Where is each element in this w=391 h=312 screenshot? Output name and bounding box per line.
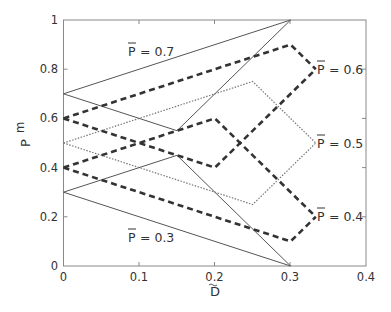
series-p07-lower [64,20,291,131]
svg-text:P: P [128,230,136,245]
svg-text:P: P [317,209,325,224]
svg-text:= 0.6: = 0.6 [329,62,363,77]
chart: 0 0.2 0.4 0.6 0.8 1 0 0.1 0.2 0.3 0.4 D … [0,0,391,312]
annotation-p03: P = 0.3 [128,229,174,245]
annotation-p07: P = 0.7 [128,43,174,59]
x-tick-0.3: 0.3 [281,270,299,284]
y-tick-0.6: 0.6 [40,111,58,125]
series-p03-upper [64,155,291,266]
svg-text:= 0.7: = 0.7 [140,44,174,59]
annotation-p04: P = 0.4 [317,208,363,224]
annotation-p06: P = 0.6 [317,61,363,77]
svg-text:P: P [317,136,325,151]
y-axis-label: P m [13,122,33,147]
svg-text:m: m [13,122,27,133]
y-tick-0.8: 0.8 [40,62,58,76]
y-tick-0.4: 0.4 [40,161,58,175]
y-tick-0.2: 0.2 [40,210,58,224]
annotation-p05: P = 0.5 [317,135,363,151]
x-tick-0.1: 0.1 [130,270,148,284]
x-tick-0: 0 [60,270,67,284]
svg-text:= 0.3: = 0.3 [140,230,174,245]
x-tick-0.4: 0.4 [357,270,375,284]
x-axis-label: D [209,284,220,299]
series-p05-lower [64,143,316,205]
svg-text:P: P [317,62,325,77]
svg-text:= 0.4: = 0.4 [329,209,363,224]
x-tick-0.2: 0.2 [205,270,223,284]
svg-text:P: P [18,139,33,147]
series-p05-upper [64,82,316,144]
y-tick-labels: 0 0.2 0.4 0.6 0.8 1 [40,13,58,273]
x-tick-labels: 0 0.1 0.2 0.3 0.4 [60,270,375,284]
y-tick-0: 0 [51,259,58,273]
svg-text:P: P [128,44,136,59]
y-tick-1: 1 [51,13,58,27]
svg-text:= 0.5: = 0.5 [329,136,363,151]
series-lines [64,20,316,266]
